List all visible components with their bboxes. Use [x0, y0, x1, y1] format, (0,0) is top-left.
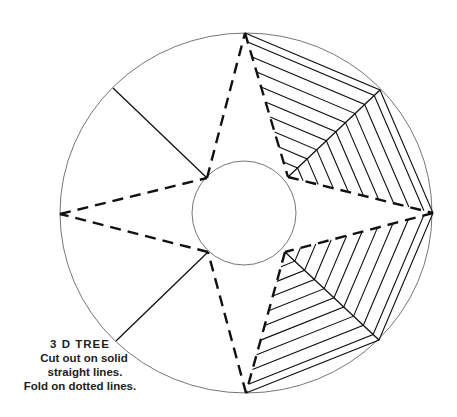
cut-line-upper-right — [288, 90, 380, 177]
instruction-line-cut-2: straight lines. — [0, 365, 160, 379]
fold-line — [60, 178, 207, 214]
fold-line — [245, 33, 288, 177]
cut-line-lower-left — [116, 252, 208, 341]
instruction-line-fold: Fold on dotted lines. — [0, 379, 160, 393]
instruction-line-cut: Cut out on solid — [0, 351, 160, 365]
fold-line — [207, 33, 245, 178]
fold-line — [60, 214, 208, 252]
cut-line-upper-left — [113, 88, 207, 178]
cut-line-lower-right — [285, 252, 379, 340]
instructions-title: 3 D TREE — [0, 337, 160, 351]
instructions-text: 3 D TREE Cut out on solid straight lines… — [0, 337, 160, 393]
fold-line — [208, 252, 246, 393]
